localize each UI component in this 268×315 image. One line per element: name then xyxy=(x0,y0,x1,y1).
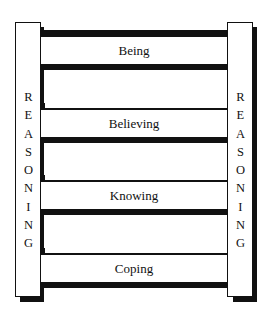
rung-label: Knowing xyxy=(110,188,158,204)
ladder-gap-2 xyxy=(45,143,228,181)
rung-label: Believing xyxy=(109,116,160,132)
ladder-gap-3 xyxy=(45,215,228,254)
rung-label: Being xyxy=(118,43,149,59)
rung-coping: Coping xyxy=(40,254,228,282)
left-label-text: REASONING xyxy=(20,90,37,255)
ladder-gap-1 xyxy=(45,70,228,109)
right-post-label: REASONING xyxy=(227,90,253,255)
rung-believing: Believing xyxy=(40,109,228,137)
right-label-text: REASONING xyxy=(232,90,249,255)
left-post-label: REASONING xyxy=(15,90,41,255)
rung-label: Coping xyxy=(115,261,153,277)
rung-knowing: Knowing xyxy=(40,181,228,209)
rung-being: Being xyxy=(40,36,228,64)
